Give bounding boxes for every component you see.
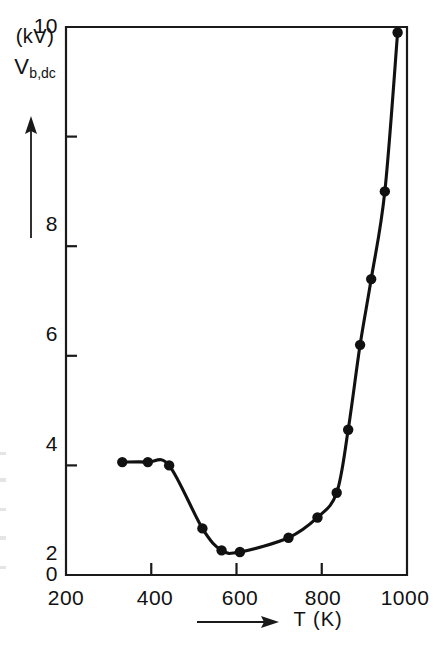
data-point	[380, 186, 390, 196]
data-point	[312, 512, 322, 522]
data-point	[366, 274, 376, 284]
up-arrow-icon	[25, 116, 37, 238]
data-point	[235, 547, 245, 557]
data-point	[164, 460, 174, 470]
data-points-group	[117, 27, 403, 557]
axis-frame	[66, 27, 407, 575]
data-curve	[122, 32, 397, 553]
data-point	[343, 425, 353, 435]
data-point	[331, 488, 341, 498]
data-point	[283, 533, 293, 543]
data-point	[355, 340, 365, 350]
figure-container: (kV) Vb,dc T (K) 10 8 6 4 2 0 200 400 60…	[0, 0, 435, 645]
data-point	[143, 457, 153, 467]
data-point	[197, 523, 207, 533]
data-point	[117, 457, 127, 467]
x-axis-ticks	[151, 563, 322, 575]
data-point	[392, 27, 402, 37]
y-axis-ticks	[66, 137, 77, 466]
data-point	[216, 545, 226, 555]
plot-area	[0, 0, 435, 645]
